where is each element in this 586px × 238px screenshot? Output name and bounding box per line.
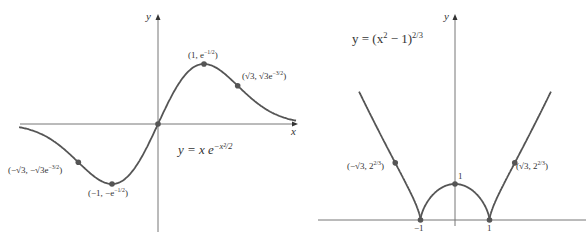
right-curve-left-branch: [359, 92, 420, 220]
label-max-point: (1, e−1/2): [188, 51, 218, 60]
point-min: [109, 181, 115, 187]
label-inflect-pos: (√3, √3e−3/2): [242, 72, 286, 81]
label-right-inflect-pos-close: ): [545, 161, 548, 171]
point-origin: [155, 121, 161, 127]
point-y-intercept: [452, 181, 458, 187]
tick-label-neg-one: −1: [414, 224, 424, 233]
label-right-inflect-pos-sup: 2/3: [537, 160, 544, 166]
label-right-inflect-pos-text: (√3, 2: [516, 161, 537, 171]
label-right-inflect-neg-text: (−√3, 2: [347, 161, 374, 171]
right-equation-base: y = (x: [352, 31, 383, 46]
label-right-inflect-pos: (√3, 22/3): [516, 162, 548, 171]
tick-label-one: 1: [487, 224, 492, 233]
right-y-axis-label: y: [444, 11, 449, 22]
left-graph: [19, 14, 298, 232]
left-equation: y = x e−x²/2: [178, 143, 232, 156]
right-equation: y = (x2 − 1)2/3: [352, 32, 423, 45]
label-min-close: ): [125, 188, 128, 198]
right-equation-exponent: 2/3: [412, 30, 423, 40]
left-x-axis-label: x: [291, 126, 296, 137]
label-inflect-pos-sup: −3/2: [272, 70, 283, 76]
left-equation-base: y = x e: [178, 142, 214, 157]
label-min-point: (−1, −e−1/2): [88, 189, 128, 198]
label-inflect-pos-close: ): [283, 71, 286, 81]
label-inflect-neg-close: ): [59, 165, 62, 175]
label-max-text: (1, e: [188, 50, 204, 60]
label-right-inflect-neg-close: ): [381, 161, 384, 171]
right-curve-right-branch: [490, 92, 551, 220]
label-right-inflect-neg: (−√3, 22/3): [347, 162, 384, 171]
left-y-axis-label: y: [146, 11, 151, 22]
label-min-text: (−1, −e: [88, 188, 114, 198]
label-max-close: ): [215, 50, 218, 60]
right-y-axis-arrow-icon: [453, 14, 458, 20]
label-inflect-neg: (−√3, −√3e−3/2): [8, 166, 62, 175]
tick-label-y-one: 1: [458, 172, 463, 181]
left-equation-exponent: −x²/2: [214, 141, 233, 151]
point-inflect-pos: [235, 83, 241, 89]
label-inflect-neg-sup: −3/2: [49, 164, 60, 170]
label-min-sup: −1/2: [114, 187, 125, 193]
point-neg-one: [418, 217, 424, 223]
label-inflect-neg-text: (−√3, −√3e: [8, 165, 49, 175]
label-right-inflect-neg-sup: 2/3: [374, 160, 381, 166]
label-max-sup: −1/2: [204, 49, 215, 55]
right-equation-mid: − 1): [387, 31, 412, 46]
graphs-canvas: [0, 0, 586, 238]
point-one: [487, 217, 493, 223]
left-y-axis-arrow-icon: [156, 14, 161, 20]
label-inflect-pos-text: (√3, √3e: [242, 71, 272, 81]
point-max: [201, 61, 207, 67]
point-inflect-neg: [392, 160, 398, 166]
point-inflect-neg: [76, 159, 82, 165]
